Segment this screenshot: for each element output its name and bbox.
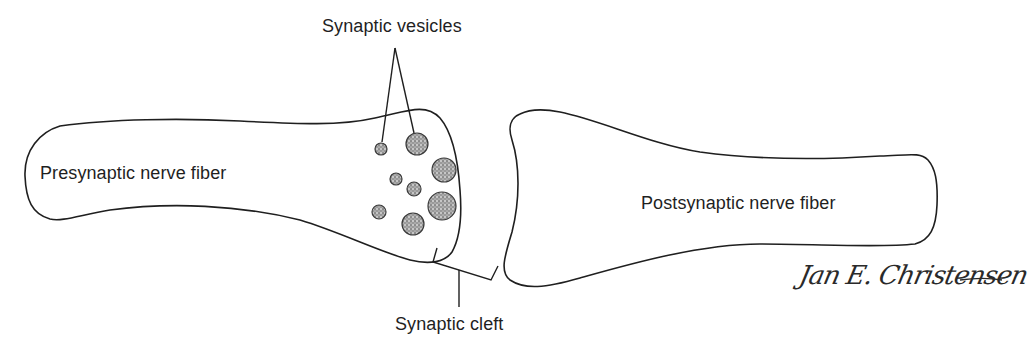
synapse-diagram: Synaptic vesicles Presynaptic nerve fibe… xyxy=(0,0,1028,356)
label-synaptic-cleft: Synaptic cleft xyxy=(395,314,503,335)
presynaptic-fiber-outline xyxy=(25,109,461,262)
label-postsynaptic-nerve-fiber: Postsynaptic nerve fiber xyxy=(641,193,836,214)
artist-signature: Jan E. Christensen xyxy=(797,260,1028,290)
vesicles-leader-lines xyxy=(382,48,414,142)
synaptic-cleft-bracket xyxy=(433,248,498,307)
label-synaptic-vesicles: Synaptic vesicles xyxy=(322,16,462,37)
synaptic-vesicles xyxy=(372,133,456,235)
label-presynaptic-nerve-fiber: Presynaptic nerve fiber xyxy=(40,163,226,184)
